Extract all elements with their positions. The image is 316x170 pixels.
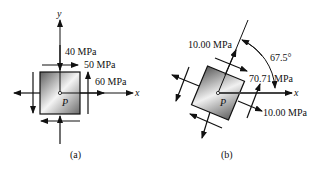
- figure-a: y x P 40 MPa 50 MPa 60 MPa (a): [14, 8, 140, 161]
- angle-arc-start: [242, 40, 262, 56]
- label-50-mpa: 50 MPa: [84, 59, 116, 70]
- caption-b: (b): [221, 149, 233, 161]
- label-angle: 67.5°: [270, 52, 292, 63]
- shear-arrow-b-left: [176, 67, 189, 101]
- stress-element-diagram: y x P 40 MPa 50 MPa 60 MPa (a): [0, 0, 316, 170]
- caption-a: (a): [70, 149, 81, 161]
- label-60-mpa: 60 MPa: [95, 76, 127, 87]
- y-axis-label: y: [56, 8, 62, 19]
- shear-arrow-b-right: [247, 84, 260, 118]
- point-p-b: [216, 91, 219, 94]
- x-axis-label-b: x: [293, 87, 299, 98]
- label-10-mpa-right: 10.00 MPa: [263, 107, 307, 118]
- point-p-label-a: P: [61, 97, 68, 108]
- x-axis-label: x: [134, 87, 140, 98]
- label-70-71-mpa: 70.71 MPa: [249, 73, 293, 84]
- label-10-mpa-top: 10.00 MPa: [188, 39, 232, 50]
- point-p-a: [58, 91, 61, 94]
- point-p-label-b: P: [219, 97, 226, 108]
- figure-b: 10.00 MPa 67.5° 70.71 MPa 10.00 MPa x P …: [172, 20, 307, 161]
- normal-arrow-b-bottom: [202, 112, 210, 138]
- label-40-mpa: 40 MPa: [65, 46, 97, 57]
